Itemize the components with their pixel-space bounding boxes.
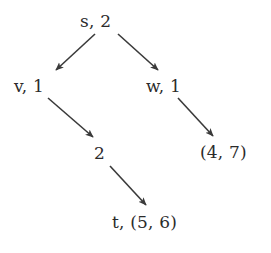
node-t: t, (5, 6) xyxy=(112,214,177,231)
node-s: s, 2 xyxy=(80,13,111,30)
edge-v-to-two xyxy=(48,98,93,137)
node-w: w, 1 xyxy=(146,78,181,95)
node-two: 2 xyxy=(94,145,105,162)
edge-group xyxy=(48,34,213,205)
edge-s-to-w xyxy=(118,34,158,70)
diagram-canvas: s, 2 v, 1 w, 1 2 (4, 7) t, (5, 6) xyxy=(0,0,271,253)
edge-s-to-v xyxy=(56,34,95,70)
node-v: v, 1 xyxy=(14,78,44,95)
edge-two-to-t xyxy=(110,166,146,205)
node-pair47: (4, 7) xyxy=(200,144,247,161)
edge-w-to-pair47 xyxy=(178,98,213,136)
